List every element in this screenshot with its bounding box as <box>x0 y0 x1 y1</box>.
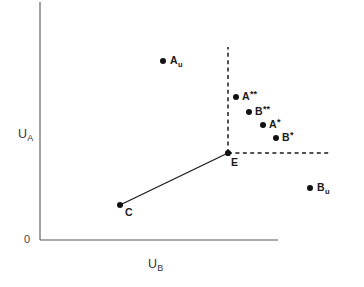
point-label-sub-Bu: u <box>325 187 330 196</box>
segment-contract-curve <box>120 153 228 205</box>
data-point-B1s[interactable] <box>273 135 279 141</box>
point-label-text-E: E <box>231 156 238 168</box>
data-point-A2s[interactable] <box>233 94 239 100</box>
segments-group <box>120 47 331 205</box>
plot-canvas <box>0 0 364 287</box>
x-axis-label-main: U <box>148 257 157 271</box>
point-label-B1s: B* <box>282 132 293 143</box>
point-label-sup-A2s: ** <box>250 89 257 99</box>
data-point-B2s[interactable] <box>246 109 252 115</box>
point-label-text-A1s: A <box>269 118 277 130</box>
y-axis-label: UA <box>18 128 33 141</box>
point-label-text-B1s: B <box>282 131 290 143</box>
point-label-Bu: Bu <box>317 182 330 193</box>
point-label-text-C: C <box>125 206 133 218</box>
point-label-B2s: B** <box>255 106 270 117</box>
point-label-text-B2s: B <box>255 105 263 117</box>
point-label-E: E <box>231 157 238 168</box>
point-label-sup-B2s: ** <box>263 104 270 114</box>
point-label-Au: Au <box>170 55 183 66</box>
point-label-A2s: A** <box>242 91 257 102</box>
point-label-sub-Au: u <box>178 60 183 69</box>
point-label-A1s: A* <box>269 119 280 130</box>
y-axis-label-sub: A <box>27 133 33 143</box>
y-axis-label-main: U <box>18 127 27 141</box>
data-point-Au[interactable] <box>160 58 166 64</box>
point-label-C: C <box>125 207 133 218</box>
point-label-sup-B1s: * <box>290 130 294 140</box>
data-point-Bu[interactable] <box>307 185 313 191</box>
x-axis-label-sub: B <box>157 263 163 273</box>
origin-label: 0 <box>24 234 30 245</box>
point-label-text-Au: A <box>170 54 178 66</box>
x-axis-label: UB <box>148 258 163 271</box>
data-point-C[interactable] <box>117 202 123 208</box>
point-label-sup-A1s: * <box>277 117 281 127</box>
point-label-text-Bu: B <box>317 181 325 193</box>
data-point-A1s[interactable] <box>260 122 266 128</box>
utility-possibility-diagram: AuA**B**A*B*ECBu UA UB 0 <box>0 0 364 287</box>
point-label-text-A2s: A <box>242 90 250 102</box>
